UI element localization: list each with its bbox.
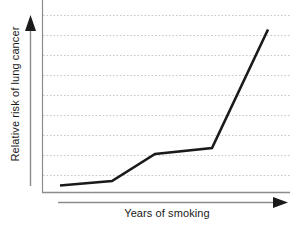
- chart-figure: Relative risk of lung cancer Years of sm…: [0, 0, 301, 228]
- x-axis-arrow-head: [273, 197, 288, 208]
- y-axis-arrow-head: [25, 15, 36, 31]
- line-chart-canvas: [0, 0, 301, 228]
- x-axis-label: Years of smoking: [82, 206, 252, 220]
- y-axis-direction-arrow: [25, 15, 36, 186]
- y-axis-label: Relative risk of lung cancer: [7, 0, 23, 189]
